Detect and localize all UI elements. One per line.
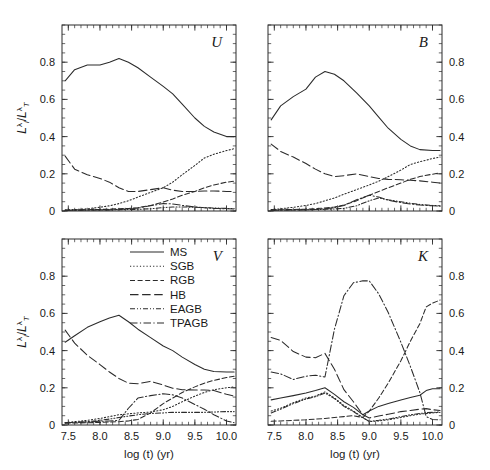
y-tick-label: 0.6 — [449, 307, 464, 319]
panel-frame — [62, 25, 236, 211]
panel-frame — [268, 25, 442, 211]
series-hb — [65, 330, 234, 396]
legend-label-sgb: SGB — [170, 260, 195, 272]
panel-label-B: B — [419, 34, 428, 50]
x-tick-label: 8.0 — [92, 430, 107, 442]
y-tick-label: 0.4 — [40, 131, 55, 143]
y-axis-title: Lλi/LλT — [15, 315, 31, 348]
y-tick-label: 0.8 — [449, 270, 464, 282]
y-tick-label: 0.6 — [449, 93, 464, 105]
x-tick-label: 9.5 — [393, 430, 408, 442]
series-sgb — [65, 149, 234, 210]
legend-label-hb: HB — [170, 289, 186, 301]
curve-group — [271, 281, 440, 422]
series-ms — [65, 58, 234, 136]
panel-label-V: V — [213, 248, 224, 264]
x-axis-title: log (t) (yr) — [124, 448, 174, 460]
panel-V: 00.20.40.60.87.58.08.59.09.510.0log (t) … — [15, 239, 237, 460]
four-panel-line-chart: 00.20.40.60.8Lλi/LλTU00.20.40.60.8B00.20… — [0, 0, 490, 470]
series-eagb — [271, 393, 440, 421]
x-tick-label: 9.5 — [187, 430, 202, 442]
curve-group — [65, 58, 234, 210]
x-axis-title: log (t) (yr) — [330, 448, 380, 460]
y-tick-label: 0.2 — [449, 168, 464, 180]
panel-label-K: K — [417, 248, 429, 264]
x-tick-label: 8.0 — [298, 430, 313, 442]
series-ms — [271, 72, 440, 151]
y-tick-label: 0.2 — [449, 382, 464, 394]
series-eagb — [65, 412, 234, 423]
y-tick-label: 0 — [49, 205, 55, 217]
panel-B: 00.20.40.60.8B — [268, 25, 464, 217]
legend-label-tpagb: TPAGB — [170, 317, 208, 329]
x-tick-label: 9.0 — [156, 430, 171, 442]
y-tick-label: 0.8 — [40, 56, 55, 68]
x-tick-label: 7.5 — [61, 430, 76, 442]
figure-panel-grid: 00.20.40.60.8Lλi/LλTU00.20.40.60.8B00.20… — [0, 0, 490, 470]
series-tpagb — [271, 281, 440, 420]
curve-group — [65, 315, 234, 423]
x-tick-label: 8.5 — [330, 430, 345, 442]
panel-K: 00.20.40.60.87.58.08.59.09.510.0log (t) … — [267, 239, 465, 460]
curve-group — [271, 72, 440, 211]
series-tpagb — [65, 394, 234, 423]
y-tick-label: 0.6 — [40, 93, 55, 105]
series-sgb — [65, 387, 234, 423]
series-tpagb — [271, 195, 440, 210]
series-ms — [65, 315, 234, 372]
y-tick-label: 0.6 — [40, 307, 55, 319]
y-axis-title: Lλi/LλT — [15, 101, 31, 134]
x-tick-label: 7.5 — [267, 430, 282, 442]
x-tick-label: 10.0 — [422, 430, 443, 442]
series-hb — [271, 338, 440, 418]
y-tick-label: 0.8 — [449, 56, 464, 68]
y-tick-label: 0.4 — [40, 345, 55, 357]
panel-U: 00.20.40.60.8Lλi/LλTU — [15, 25, 236, 217]
x-tick-label: 10.0 — [216, 430, 237, 442]
y-tick-label: 0.8 — [40, 270, 55, 282]
y-tick-label: 0 — [449, 205, 455, 217]
panel-frame — [62, 239, 236, 425]
y-tick-label: 0.2 — [40, 168, 55, 180]
y-tick-label: 0.4 — [449, 131, 464, 143]
x-tick-label: 8.5 — [124, 430, 139, 442]
legend: MSSGBRGBHBEAGBTPAGB — [130, 246, 208, 329]
y-tick-label: 0.4 — [449, 345, 464, 357]
series-rgb — [65, 376, 234, 423]
y-tick-label: 0 — [449, 419, 455, 431]
legend-label-eagb: EAGB — [170, 303, 202, 315]
series-rgb — [271, 173, 440, 210]
y-tick-label: 0.2 — [40, 382, 55, 394]
legend-label-ms: MS — [170, 246, 188, 258]
series-rgb — [271, 300, 440, 421]
x-tick-label: 9.0 — [362, 430, 377, 442]
y-tick-label: 0 — [49, 419, 55, 431]
panel-label-U: U — [211, 34, 223, 50]
legend-label-rgb: RGB — [170, 274, 195, 286]
